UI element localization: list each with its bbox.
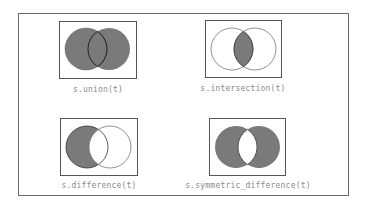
panel-difference: [60, 118, 138, 176]
label-intersection: s.intersection(t): [200, 84, 285, 93]
panel-union: [59, 21, 137, 79]
venn-symmetric-difference-diagram: [209, 118, 286, 176]
venn-difference-diagram: [60, 118, 138, 176]
label-difference: s.difference(t): [61, 181, 136, 190]
label-union: s.union(t): [73, 85, 123, 94]
label-symmetric-difference: s.symmetric_difference(t): [185, 181, 310, 190]
venn-union-diagram: [59, 21, 137, 79]
panel-intersection: [205, 20, 282, 78]
panel-symmetric-difference: [209, 118, 286, 176]
venn-intersection-diagram: [205, 20, 282, 78]
